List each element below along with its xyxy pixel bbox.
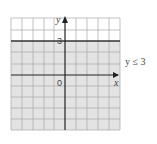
coordinate-plane [0,0,157,144]
y-axis-label: y [56,15,60,25]
inequality-graph: y 3 0 x y ≤ 3 [0,0,157,144]
inequality-label: y ≤ 3 [125,57,146,67]
origin-label: 0 [57,79,62,88]
x-axis-label: x [114,78,118,88]
y-tick-label-3: 3 [57,37,62,46]
